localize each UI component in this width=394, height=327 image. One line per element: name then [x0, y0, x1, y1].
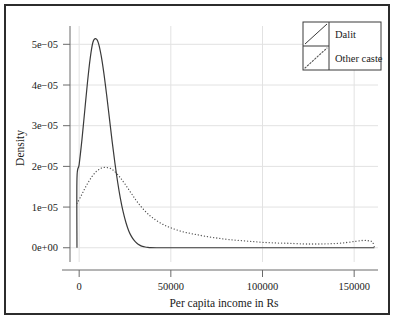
x-tick-label: 100000	[247, 281, 279, 292]
y-tick-label: 4e−05	[32, 80, 58, 91]
y-axis-ticks	[63, 44, 70, 247]
y-tick-label: 1e−05	[32, 202, 58, 213]
x-axis-tick-labels: 050000100000150000	[77, 281, 370, 292]
x-tick-label: 150000	[338, 281, 370, 292]
x-tick-label: 50000	[158, 281, 184, 292]
y-tick-label: 0e+00	[32, 242, 58, 253]
y-tick-label: 3e−05	[32, 120, 58, 131]
legend-label-other-caste: Other caste	[335, 53, 383, 64]
chart-canvas: 0e+001e−052e−053e−054e−055e−05 050000100…	[0, 0, 394, 327]
y-tick-label: 2e−05	[32, 161, 58, 172]
density-plot-figure: 0e+001e−052e−053e−054e−055e−05 050000100…	[0, 0, 394, 327]
y-tick-label: 5e−05	[32, 39, 58, 50]
x-axis-ticks	[79, 270, 354, 277]
x-axis-title: Per capita income in Rs	[169, 297, 279, 310]
legend-label-dalit: Dalit	[335, 29, 356, 40]
x-tick-label: 0	[77, 281, 82, 292]
legend[interactable]: Dalit Other caste	[303, 22, 383, 70]
y-axis-tick-labels: 0e+001e−052e−053e−054e−055e−05	[32, 39, 58, 253]
y-axis-title: Density	[14, 130, 27, 166]
